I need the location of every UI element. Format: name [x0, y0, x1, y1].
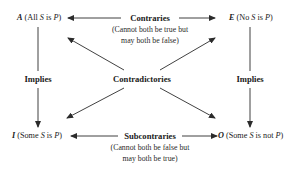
- contradictories-arrow-to-a: [68, 38, 124, 70]
- contraries-label: Contraries: [130, 13, 170, 23]
- contraries-note-line1: (Cannot both be true but: [112, 24, 188, 35]
- contradictories-label: Contradictories: [113, 74, 171, 84]
- proposition-i: I (Some S is P): [12, 131, 62, 141]
- contraries-note-line2: may both be false): [121, 35, 179, 46]
- contradictories-arrow-to-i: [67, 88, 124, 118]
- contradictories-arrow-to-o: [160, 88, 215, 118]
- proposition-o: O (Some S is not P): [218, 131, 283, 141]
- subcontraries-note-line2: may both be true): [122, 153, 177, 164]
- proposition-a: A (All S is P): [17, 13, 61, 23]
- subcontraries-note-line1: (Cannot both be false but: [111, 142, 190, 153]
- subcontraries-label: Subcontraries: [124, 131, 176, 141]
- proposition-e: E (No S is P): [229, 13, 273, 23]
- implies-right-label: Implies: [236, 74, 263, 84]
- implies-left-label: Implies: [24, 74, 51, 84]
